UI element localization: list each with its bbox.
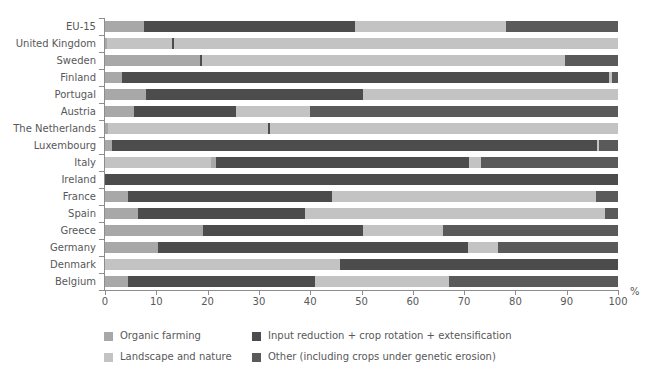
bar-segment xyxy=(305,208,605,219)
legend-item-landscape-and-nature: Landscape and nature xyxy=(104,351,232,363)
y-axis-tick xyxy=(99,86,104,87)
bar-united-kingdom xyxy=(105,38,618,49)
y-axis-label: France xyxy=(0,191,96,202)
bar-segment xyxy=(236,106,309,117)
bar-finland xyxy=(105,72,618,83)
bar-track xyxy=(105,174,618,185)
bar-track xyxy=(105,157,618,168)
x-axis-tick xyxy=(310,291,311,295)
legend-swatch-organic-farming-icon xyxy=(104,332,113,341)
bar-track xyxy=(105,123,618,134)
y-axis-label: EU-15 xyxy=(0,21,96,32)
y-axis-label: Austria xyxy=(0,106,96,117)
y-axis-label: Italy xyxy=(0,157,96,168)
legend-item-organic-farming: Organic farming xyxy=(104,330,201,342)
bar-track xyxy=(105,89,618,100)
bar-segment xyxy=(122,72,608,83)
x-axis-tick-label: 30 xyxy=(253,296,266,308)
y-axis-tick xyxy=(99,35,104,36)
y-axis-tick xyxy=(99,205,104,206)
bar-ireland xyxy=(105,174,618,185)
bar-segment xyxy=(363,225,443,236)
plot-area xyxy=(105,18,618,290)
y-axis-label: Denmark xyxy=(0,259,96,270)
x-axis-tick xyxy=(259,291,260,295)
chart-legend: Organic farming Landscape and nature Inp… xyxy=(104,330,604,372)
bar-belgium xyxy=(105,276,618,287)
bar-segment xyxy=(146,89,363,100)
bar-segment xyxy=(128,191,332,202)
stacked-bar-chart: EU-15United KingdomSwedenFinlandPortugal… xyxy=(0,0,652,379)
y-axis-tick xyxy=(99,154,104,155)
x-axis-tick-label: 100 xyxy=(608,296,627,308)
legend-item-input-reduction: Input reduction + crop rotation + extens… xyxy=(252,330,512,342)
bar-segment xyxy=(565,55,618,66)
y-axis-label: United Kingdom xyxy=(0,38,96,49)
legend-swatch-other-icon xyxy=(252,353,261,362)
bar-germany xyxy=(105,242,618,253)
bar-track xyxy=(105,225,618,236)
bar-segment xyxy=(105,140,112,151)
bar-segment xyxy=(506,21,618,32)
x-axis-ticks: 0102030405060708090100 xyxy=(105,291,618,307)
bar-segment xyxy=(315,276,448,287)
bar-segment xyxy=(498,242,618,253)
bar-segment xyxy=(216,157,469,168)
x-axis-unit-label: % xyxy=(630,286,640,297)
y-axis-tick xyxy=(99,239,104,240)
y-axis-tick xyxy=(99,137,104,138)
bar-luxembourg xyxy=(105,140,618,151)
x-axis-tick xyxy=(208,291,209,295)
bar-austria xyxy=(105,106,618,117)
x-axis-tick-label: 80 xyxy=(509,296,522,308)
bar-segment xyxy=(105,242,158,253)
y-axis-tick xyxy=(99,18,104,19)
bar-spain xyxy=(105,208,618,219)
bar-segment xyxy=(108,123,269,134)
bar-segment xyxy=(105,157,211,168)
y-axis-tick xyxy=(99,69,104,70)
bar-segment xyxy=(105,191,128,202)
bar-track xyxy=(105,208,618,219)
y-axis-label: Ireland xyxy=(0,174,96,185)
bar-segment xyxy=(105,72,122,83)
x-axis-tick-label: 70 xyxy=(458,296,471,308)
x-axis-tick-label: 10 xyxy=(150,296,163,308)
bar-segment xyxy=(105,55,200,66)
x-axis-tick-label: 50 xyxy=(355,296,368,308)
bar-segment xyxy=(105,21,144,32)
x-axis-tick xyxy=(105,291,106,295)
bar-segment xyxy=(612,72,618,83)
legend-label-input-reduction: Input reduction + crop rotation + extens… xyxy=(268,330,512,342)
bar-segment xyxy=(105,276,128,287)
bar-track xyxy=(105,21,618,32)
bar-france xyxy=(105,191,618,202)
x-axis-tick-label: 0 xyxy=(102,296,108,308)
bar-denmark xyxy=(105,259,618,270)
bar-segment xyxy=(363,89,618,100)
bar-segment xyxy=(107,38,172,49)
bar-segment xyxy=(174,38,618,49)
y-axis-label: Greece xyxy=(0,225,96,236)
y-axis-label: Sweden xyxy=(0,55,96,66)
x-axis-tick-label: 40 xyxy=(304,296,317,308)
bar-italy xyxy=(105,157,618,168)
y-axis-labels: EU-15United KingdomSwedenFinlandPortugal… xyxy=(0,18,96,290)
x-axis-tick-label: 90 xyxy=(560,296,573,308)
bar-segment xyxy=(203,225,362,236)
y-axis-label: Luxembourg xyxy=(0,140,96,151)
bar-segment xyxy=(355,21,506,32)
bar-segment xyxy=(310,106,618,117)
bar-track xyxy=(105,38,618,49)
y-axis-label: The Netherlands xyxy=(0,123,96,134)
bar-the-netherlands xyxy=(105,123,618,134)
bar-sweden xyxy=(105,55,618,66)
bar-segment xyxy=(105,259,340,270)
y-axis-label: Germany xyxy=(0,242,96,253)
bar-segment xyxy=(340,259,618,270)
bar-segment xyxy=(202,55,565,66)
y-axis-label: Portugal xyxy=(0,89,96,100)
bar-segment xyxy=(105,174,618,185)
y-axis-tick xyxy=(99,120,104,121)
y-axis-tick xyxy=(99,256,104,257)
